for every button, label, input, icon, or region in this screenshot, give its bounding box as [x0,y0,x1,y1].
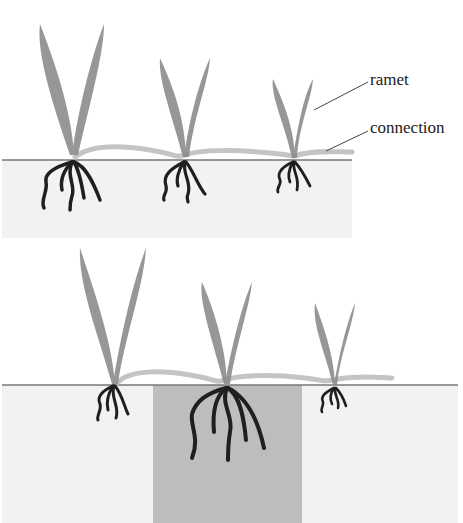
connection-label: connection [370,118,445,138]
ramet-label: ramet [370,70,409,90]
ramet-2 [160,58,210,157]
ramet-6 [315,303,355,385]
connection-leader-line [326,131,368,151]
ramet-5 [201,282,252,384]
bottom-panel [2,248,458,523]
connection-stolon [118,372,392,382]
ramet-4 [80,248,146,384]
ramet-3 [273,79,313,158]
connection-stolon [75,147,352,157]
ramet-1 [39,24,104,155]
top-panel [2,24,368,238]
soil-homogeneous [2,160,352,238]
ramet-leader-line [314,82,368,110]
